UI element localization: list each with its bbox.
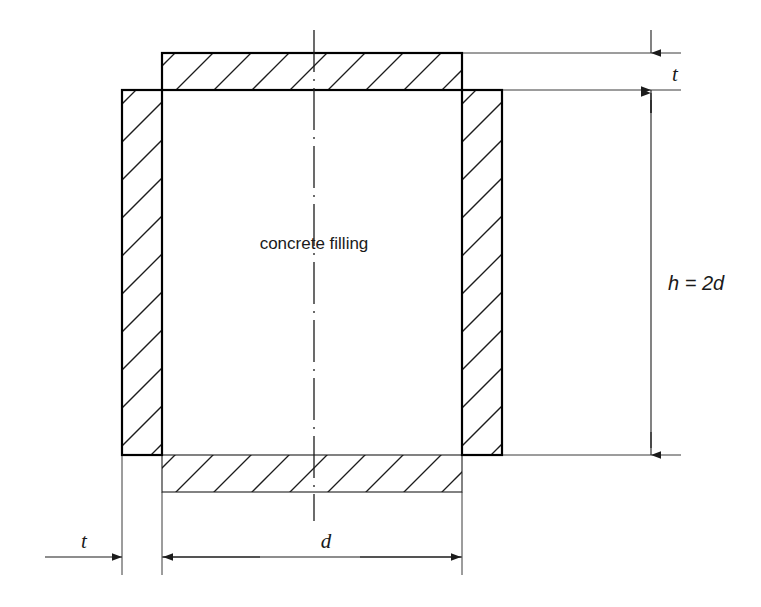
label-inner-width: d: [321, 529, 332, 553]
left-wall-body: [122, 90, 162, 455]
label-wall-thickness: t: [81, 529, 88, 553]
concrete-filling-label: concrete filling: [260, 234, 369, 253]
top-plate: [130, 28, 542, 98]
concrete-filled-tube-cross-section: concrete filling t h = 2d t d: [0, 0, 761, 607]
label-thickness-top: t: [672, 62, 679, 86]
extension-lines: [122, 53, 681, 575]
diagram-canvas: concrete filling t h = 2d t d: [0, 0, 761, 607]
label-overall-height: h = 2d: [668, 272, 725, 294]
right-wall-body: [462, 90, 502, 455]
